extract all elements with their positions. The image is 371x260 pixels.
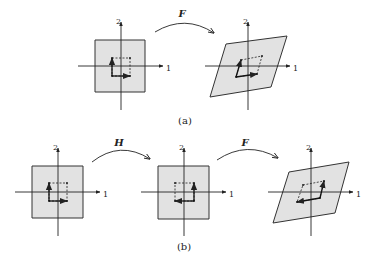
panel-a: 12 12 F (a) bbox=[78, 8, 298, 126]
deformed-configuration: 12 bbox=[268, 143, 361, 236]
deformed-configuration: 12 bbox=[205, 17, 298, 110]
axis-2-label: 2 bbox=[116, 17, 121, 26]
axis-1-label: 1 bbox=[293, 64, 298, 73]
curved-arrow bbox=[217, 149, 278, 160]
vertex-dot bbox=[302, 184, 304, 186]
caption-a: (a) bbox=[178, 115, 192, 126]
body-region bbox=[210, 36, 287, 97]
axis-1-label: 1 bbox=[229, 190, 234, 199]
mapping-label: F bbox=[240, 137, 249, 148]
body-region bbox=[158, 166, 209, 219]
panel-b: 12 12 12 H F (b) bbox=[15, 137, 361, 252]
intermediate-configuration: 12 bbox=[141, 143, 234, 236]
axis-1-label: 1 bbox=[103, 190, 108, 199]
mapping-arrow-H: H bbox=[92, 137, 150, 162]
reference-configuration: 12 bbox=[15, 143, 108, 236]
axis-2-label: 2 bbox=[179, 143, 184, 152]
curved-arrow bbox=[92, 150, 150, 162]
axis-1-label: 1 bbox=[166, 64, 171, 73]
caption-b: (b) bbox=[177, 241, 191, 252]
mapping-label: F bbox=[177, 8, 186, 19]
vertex-dot bbox=[174, 182, 176, 184]
axis-1-label: 1 bbox=[356, 190, 361, 199]
vertex-dot bbox=[66, 182, 68, 184]
axis-2-label: 2 bbox=[306, 143, 311, 152]
mapping-label: H bbox=[113, 137, 124, 148]
axis-2-label: 2 bbox=[53, 143, 58, 152]
deformation-figure: 12 12 F (a) 12 12 12 H F (b) bbox=[0, 0, 371, 260]
mapping-arrow-F: F bbox=[155, 8, 214, 33]
vertex-dot bbox=[129, 57, 131, 59]
axis-2-label: 2 bbox=[243, 17, 248, 26]
curved-arrow bbox=[155, 23, 214, 33]
mapping-arrow-F: F bbox=[217, 137, 278, 160]
vertex-dot bbox=[261, 55, 263, 57]
